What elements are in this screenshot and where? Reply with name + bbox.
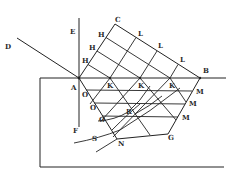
label-L3: L xyxy=(180,55,185,64)
label-O3: O xyxy=(99,115,105,124)
label-E: E xyxy=(70,27,75,36)
label-R: R xyxy=(126,107,132,116)
label-M1: M xyxy=(196,87,204,96)
label-O1: O xyxy=(82,90,88,99)
label-H1: H xyxy=(98,30,105,39)
incident-ray-DA xyxy=(17,38,79,78)
point-B xyxy=(199,77,201,79)
label-N: N xyxy=(118,139,125,148)
label-H2: H xyxy=(89,43,96,52)
label-H3: H xyxy=(82,56,89,65)
label-F: F xyxy=(73,126,78,135)
label-S: S xyxy=(92,134,97,143)
point-K1 xyxy=(109,77,111,79)
label-K1: K xyxy=(107,81,114,90)
label-O2: O xyxy=(90,103,96,112)
label-K3: K xyxy=(169,81,176,90)
label-L1: L xyxy=(138,29,143,38)
label-L2: L xyxy=(158,41,163,50)
label-K2: K xyxy=(138,81,145,90)
point-labels: D E F A C B G N R S H H H L L L K K K O … xyxy=(5,15,209,148)
label-M2: M xyxy=(189,99,197,108)
point-K2 xyxy=(139,77,141,79)
label-G: G xyxy=(168,133,174,142)
label-D: D xyxy=(5,42,11,51)
label-C: C xyxy=(115,15,121,24)
refraction-diagram: D E F A C B G N R S H H H L L L K K K O … xyxy=(0,0,236,178)
label-M3: M xyxy=(182,113,190,122)
point-A xyxy=(78,77,81,80)
label-A: A xyxy=(70,83,77,92)
label-B: B xyxy=(203,66,209,75)
